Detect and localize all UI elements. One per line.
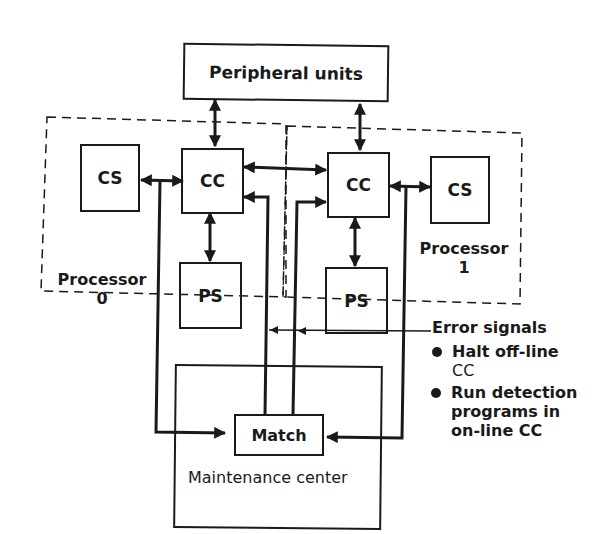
cs-box-1: CS xyxy=(430,156,490,224)
bullet-halt-line1: Halt off-line xyxy=(452,342,559,361)
bullet-run-detection: Run detection programs in on-line CC xyxy=(431,383,577,440)
bullet-run-line3: on-line CC xyxy=(451,421,577,440)
bullet-halt-line2: CC xyxy=(452,361,559,380)
processor-0-name: Processor xyxy=(56,270,148,289)
ps-box-1: PS xyxy=(325,267,388,334)
processor-1-number: 1 xyxy=(418,258,510,277)
bullet-run-line2: programs in xyxy=(451,402,577,421)
bullet-icon xyxy=(431,388,441,398)
diagram: Peripheral units CS CC PS Processor 0 CC… xyxy=(0,0,611,534)
bullet-icon xyxy=(432,347,442,357)
error-signals-label: Error signals xyxy=(432,318,611,337)
cs-label-0: CS xyxy=(97,168,122,188)
cc-box-1: CC xyxy=(327,152,390,218)
cs-label-1: CS xyxy=(447,180,472,200)
peripheral-units-box: Peripheral units xyxy=(183,43,390,103)
processor-0-number: 0 xyxy=(56,289,148,308)
bullet-halt: Halt off-line CC xyxy=(432,342,559,380)
cc-label-0: CC xyxy=(200,171,225,191)
cc-label-1: CC xyxy=(346,175,371,195)
match-label: Match xyxy=(251,426,306,445)
processor-0-label: Processor 0 xyxy=(56,270,148,308)
error-signals-title: Error signals xyxy=(432,318,611,337)
peripheral-units-label: Peripheral units xyxy=(209,62,363,84)
bullet-run-line1: Run detection xyxy=(451,383,577,402)
maintenance-center-label: Maintenance center xyxy=(188,468,348,487)
ps-label-0: PS xyxy=(198,286,223,306)
match-box: Match xyxy=(234,414,324,456)
ps-label-1: PS xyxy=(344,291,369,311)
ps-box-0: PS xyxy=(179,262,242,329)
processor-1-label: Processor 1 xyxy=(418,239,510,277)
cc-box-0: CC xyxy=(181,148,244,214)
cs-box-0: CS xyxy=(80,144,140,212)
processor-1-name: Processor xyxy=(418,239,510,258)
